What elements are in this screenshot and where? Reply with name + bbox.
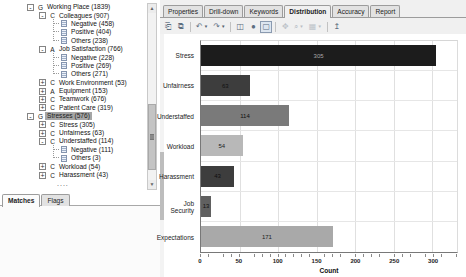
tab-distribution[interactable]: Distribution [284,5,331,18]
tree-item-label[interactable]: Patient Care (319) [57,104,115,112]
tree-item-label[interactable]: Harassment (43) [57,171,110,179]
expand-toggle-icon[interactable]: + [39,104,46,111]
analysis-panel: PropertiesDrill-downKeywordsDistribution… [160,0,466,277]
dropdown-caret-icon[interactable]: ▼ [299,24,303,29]
expand-toggle-icon[interactable]: + [39,172,46,179]
zoom-tool-button[interactable]: ⌕▼ [292,21,305,33]
category-type-icon: C [48,104,57,111]
expand-toggle-icon[interactable]: + [39,96,46,103]
bar-harassment[interactable]: 43 [201,166,234,187]
tree-item-label[interactable]: Equipment (153) [57,87,110,95]
tree-item-label[interactable]: Teamwork (676) [57,95,108,103]
bar-workload[interactable]: 54 [201,135,243,156]
copy-button[interactable]: ⧉ [175,21,187,33]
tree-item: +CWork Environment (53) [27,79,147,87]
category-label: Expectations [160,223,197,253]
tree-item-label[interactable]: Positive (269) [69,62,113,70]
x-tick-label: 0 [198,258,201,264]
collapse-toggle-icon[interactable]: - [27,4,34,11]
tab-matches[interactable]: Matches [2,194,40,207]
expand-toggle-icon[interactable]: + [39,121,46,128]
expand-toggle-icon[interactable]: + [39,88,46,95]
tab-properties[interactable]: Properties [163,5,203,17]
tab-flags[interactable]: Flags [41,194,69,206]
x-tick-label: 200 [350,258,360,264]
collapse-toggle-icon[interactable]: - [27,113,34,120]
save-button[interactable]: ◫ [234,21,246,33]
tree-item-label[interactable]: Unfairness (63) [57,129,106,137]
tree-item-label[interactable]: Understaffed (114) [57,137,115,145]
tree-item: Positive (269) [27,62,147,70]
expand-toggle-icon[interactable]: + [39,79,46,86]
new-document-button[interactable]: ⎗ [162,21,174,33]
bar-understaffed[interactable]: 114 [201,105,289,126]
descriptor-icon [61,20,67,27]
scroll-down-icon[interactable]: ▼ [148,180,156,189]
tab-accuracy[interactable]: Accuracy [332,5,369,17]
bar-expectations[interactable]: 171 [201,226,333,247]
pan-tool-button[interactable]: ✥ [279,21,291,33]
analysis-tab-strip: PropertiesDrill-downKeywordsDistribution… [160,4,466,18]
redo-icon: ↷ [213,22,220,31]
refresh-button[interactable]: ● [247,21,259,33]
bar-value-label: 63 [222,83,229,89]
x-tick-label: 50 [236,258,243,264]
dropdown-caret-icon[interactable]: ▼ [204,24,208,29]
tree-item: +CHarassment (43) [27,171,147,179]
tree-item: +CWorkload (54) [27,162,147,170]
tree-item-label[interactable]: Negative (458) [69,20,116,28]
undo-button[interactable]: ↶▼ [194,21,210,33]
chart-options-button[interactable]: ▦▼ [307,21,324,33]
bar-job-security[interactable]: 13 [201,196,211,217]
tree-item-label[interactable]: Work Environment (53) [57,79,129,87]
tree-item-label[interactable]: Negative (228) [69,54,116,62]
plot-area: 30563114544313171 [200,40,458,253]
scrollbar-grip [150,134,154,140]
category-type-icon: C [48,163,57,170]
category-type-icon: C [48,79,57,86]
tree-item: +CPatient Care (319) [27,104,147,112]
tree-item-label[interactable]: Others (271) [69,70,110,78]
scroll-up-icon[interactable]: ▲ [148,4,156,13]
tab-keywords[interactable]: Keywords [244,5,283,17]
tab-drill-down[interactable]: Drill-down [204,5,243,17]
tab-report[interactable]: Report [370,5,400,17]
tree-item-label[interactable]: Others (3) [69,154,103,162]
tree-item-label[interactable]: Job Satisfaction (766) [57,45,125,53]
export-button[interactable]: ↥ [331,21,343,33]
category-type-icon: C [48,96,57,103]
collapse-toggle-icon[interactable]: - [39,46,46,53]
tree-item-label[interactable]: Others (238) [69,37,110,45]
expand-toggle-icon[interactable]: + [39,130,46,137]
collapse-toggle-icon[interactable]: - [39,12,46,19]
select-tool-button[interactable]: ▢ [260,21,272,33]
scrollbar-thumb[interactable] [148,104,156,170]
descriptor-icon [61,155,67,162]
tree-scrollbar[interactable]: ▲ ▼ [147,3,157,190]
collapse-toggle-icon[interactable]: - [39,138,46,145]
chart-row: 13 [201,192,457,222]
more-items-indicator: .... [27,180,69,187]
tree-item-label[interactable]: Stress (305) [57,121,97,129]
tree-item-label[interactable]: Negative (111) [69,146,115,154]
tree-item: +CStress (305) [27,120,147,128]
x-tick-label: 300 [428,258,438,264]
x-axis-title: Count [200,267,458,274]
bar-value-label: 13 [203,203,210,209]
bar-stress[interactable]: 305 [201,45,436,66]
tree-item-label[interactable]: Positive (404) [69,28,113,36]
distribution-chart: StressUnfairnessUnderstaffedWorkloadHara… [160,34,466,277]
expand-toggle-icon[interactable]: + [39,163,46,170]
tree-item-label[interactable]: Workload (54) [57,163,102,171]
toolbar-separator [190,22,191,32]
redo-button[interactable]: ↷▼ [211,21,227,33]
tree-item-label[interactable]: Stresses (576) [45,112,92,120]
x-tick-label: 250 [389,258,399,264]
tree-item-label[interactable]: Working Place (1839) [45,3,112,11]
dropdown-caret-icon[interactable]: ▼ [317,24,321,29]
chart-options-icon: ▦ [309,22,317,31]
tree-item-label[interactable]: Colleagues (907) [57,12,111,20]
dropdown-caret-icon[interactable]: ▼ [221,24,225,29]
tree-connector [53,51,59,58]
bar-unfairness[interactable]: 63 [201,75,250,96]
